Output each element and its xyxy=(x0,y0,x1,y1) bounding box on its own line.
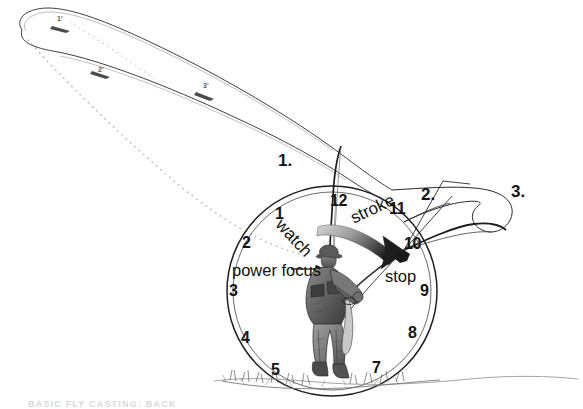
dotted-trajectory xyxy=(28,22,300,254)
loop-marker-3: 3' xyxy=(203,82,209,89)
figure-canvas: 1. 2. 3. 1' 2' 3' 12 11 10 9 8 7 5 4 3 2… xyxy=(0,0,583,409)
line-direction-ticks xyxy=(50,26,214,101)
clock-hour-2: 2 xyxy=(242,235,251,251)
clock-hour-8: 8 xyxy=(408,325,417,341)
annotation-power-focus: power focus xyxy=(232,262,321,279)
clock-hour-10: 10 xyxy=(404,236,421,252)
clock-hour-9: 9 xyxy=(420,283,429,299)
step-marker-1: 1. xyxy=(278,152,292,169)
loop-marker-1: 1' xyxy=(57,15,63,22)
clock-hour-3: 3 xyxy=(229,283,238,299)
loop-marker-2: 2' xyxy=(98,66,104,73)
casting-diagram-illustration xyxy=(0,0,583,409)
step-marker-2: 2. xyxy=(421,186,435,203)
annotation-stop: stop xyxy=(385,268,416,285)
ground-grass xyxy=(214,370,578,389)
clock-hour-4: 4 xyxy=(241,330,250,346)
step-marker-3: 3. xyxy=(511,183,525,200)
clock-hour-12: 12 xyxy=(330,193,347,209)
clock-hour-5: 5 xyxy=(271,362,280,378)
figure-caption: BASIC FLY CASTING: BACK xyxy=(28,399,177,409)
clock-hour-7: 7 xyxy=(372,360,381,376)
fly-line-loop xyxy=(20,8,396,206)
